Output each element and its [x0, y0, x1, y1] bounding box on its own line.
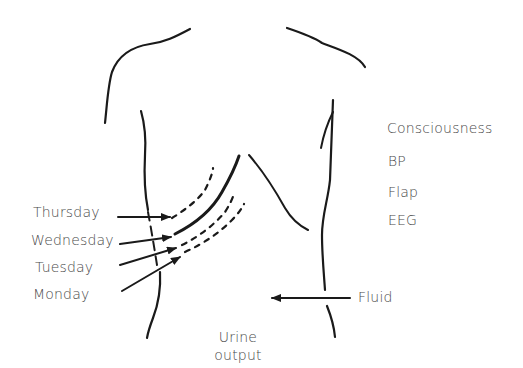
label-consciousness: Consciousness: [387, 120, 493, 136]
arrow-tuesday: [120, 248, 176, 265]
left-shoulder-outline: [105, 29, 190, 123]
right-torso-lower-outline: [327, 306, 335, 337]
label-urine-line2: output: [210, 346, 266, 364]
arrow-wednesday: [120, 237, 171, 244]
label-tuesday: Tuesday: [35, 259, 93, 275]
label-fluid: Fluid: [358, 289, 393, 305]
torso-diagram: [0, 0, 523, 368]
liver-edge-dashed-3: [185, 204, 244, 252]
label-wednesday: Wednesday: [31, 232, 114, 248]
right-torso-outline: [322, 100, 333, 290]
label-bp: BP: [388, 153, 406, 169]
liver-edge-thursday: [175, 156, 239, 234]
label-eeg: EEG: [388, 212, 417, 228]
label-monday: Monday: [33, 286, 89, 302]
right-shoulder-outline: [287, 28, 365, 67]
label-flap: Flap: [388, 184, 418, 200]
liver-edge-dashed-2: [182, 193, 234, 245]
label-urine-output: Urine output: [210, 328, 266, 364]
label-thursday: Thursday: [33, 204, 100, 220]
label-urine-line1: Urine: [210, 328, 266, 346]
left-torso-outline: [141, 111, 148, 210]
costal-margin-right: [249, 155, 308, 230]
left-torso-lower-outline: [147, 272, 160, 338]
